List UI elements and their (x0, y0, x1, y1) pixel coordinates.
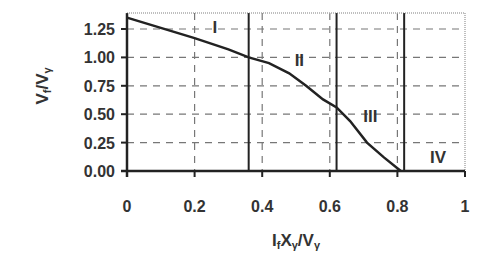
region-boundaries (249, 13, 404, 171)
x-tick-label: 0.4 (251, 198, 273, 215)
region-label: III (363, 107, 377, 126)
x-tick-labels: 00.20.40.60.81 (123, 198, 470, 215)
y-tick-label: 0.25 (84, 135, 115, 152)
y-axis-title: Vf/Vγ (33, 67, 53, 105)
y-tick-labels: 0.000.250.500.751.001.25 (84, 21, 115, 180)
x-axis-title: IfXγ/Vγ (272, 231, 321, 251)
x-tick-label: 1 (461, 198, 470, 215)
grid-lines (127, 13, 465, 171)
y-tick-label: 0.50 (84, 106, 115, 123)
y-tick-label: 1.00 (84, 49, 115, 66)
chart: 00.20.40.60.81 0.000.250.500.751.001.25 … (0, 0, 491, 264)
y-tick-label: 0.00 (84, 163, 115, 180)
y-tick-label: 0.75 (84, 78, 115, 95)
data-curve (127, 18, 401, 171)
plot-frame (127, 13, 465, 171)
region-label: II (295, 51, 304, 70)
x-tick-label: 0.2 (183, 198, 205, 215)
x-tick-label: 0.8 (386, 198, 408, 215)
axes (121, 13, 465, 177)
x-tick-label: 0 (123, 198, 132, 215)
x-tick-label: 0.6 (319, 198, 341, 215)
y-tick-label: 1.25 (84, 21, 115, 38)
region-label: I (213, 18, 218, 37)
region-label: IV (430, 148, 447, 167)
